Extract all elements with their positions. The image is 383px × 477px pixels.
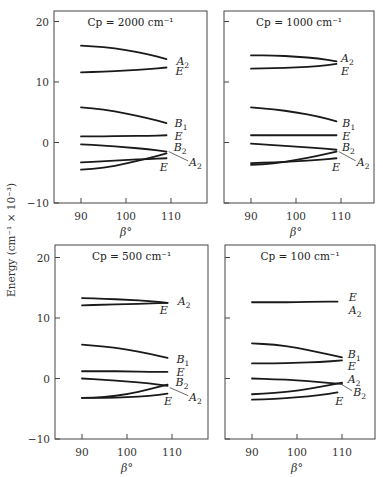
curve-label: B2 <box>352 386 366 401</box>
energy-figure: −100102090100110β°Cp = 2000 cm⁻¹A2EB1EB2… <box>0 0 383 477</box>
curve-b1 <box>252 343 342 357</box>
x-tick-label: 110 <box>332 446 352 458</box>
plot-frame <box>55 245 208 439</box>
panel-title: Cp = 500 cm⁻¹ <box>92 250 171 262</box>
curve-e <box>82 371 168 372</box>
x-tick-label: 110 <box>331 210 351 222</box>
curve-label: A2 <box>356 156 370 171</box>
curve-label: A2 <box>177 295 191 310</box>
curve-e <box>251 64 337 69</box>
curve-label: E <box>159 304 168 317</box>
x-tick-label: 100 <box>286 210 306 222</box>
y-tick-label: 0 <box>43 373 50 385</box>
y-tick-label: 10 <box>37 312 50 324</box>
y-tick-label: 0 <box>42 137 49 149</box>
x-tick-label: 90 <box>75 446 88 458</box>
curve-label: E <box>334 395 343 408</box>
curve-e-a2 <box>252 302 338 303</box>
x-tick-label: 90 <box>244 210 257 222</box>
curve-a2 <box>82 298 168 303</box>
curve-label: E <box>159 161 168 174</box>
x-tick-label: 100 <box>116 210 136 222</box>
curve-label: E <box>347 360 356 373</box>
x-axis-label: β° <box>120 462 133 475</box>
curve-e <box>251 158 337 163</box>
curve-b1 <box>251 107 337 121</box>
panel-title: Cp = 100 cm⁻¹ <box>260 250 339 262</box>
y-tick-label: 20 <box>36 16 49 28</box>
panel-cp-1000: 90100110β°Cp = 1000 cm⁻¹A2EB1EB2A2E <box>224 11 374 239</box>
y-tick-label: 20 <box>37 252 50 264</box>
x-tick-label: 110 <box>162 446 182 458</box>
curve-label: A2 <box>188 391 202 406</box>
plot-frame <box>54 11 207 203</box>
curve-e <box>81 135 167 136</box>
x-tick-label: 90 <box>245 446 258 458</box>
x-tick-label: 100 <box>287 446 307 458</box>
curve-a2 <box>81 46 167 59</box>
curve-b1 <box>82 345 168 358</box>
curve-label: E <box>331 161 340 174</box>
y-tick-label: −10 <box>27 197 49 209</box>
x-tick-label: 90 <box>74 210 87 222</box>
panel-title: Cp = 1000 cm⁻¹ <box>256 16 342 28</box>
curve-b2 <box>81 144 167 151</box>
x-tick-label: 110 <box>161 210 181 222</box>
x-tick-label: 100 <box>117 446 137 458</box>
curve-e <box>81 158 167 162</box>
curve-label: E <box>175 65 184 78</box>
plot-frame <box>225 245 375 439</box>
curve-label: A2 <box>188 156 202 171</box>
panel-cp-2000: −100102090100110β°Cp = 2000 cm⁻¹A2EB1EB2… <box>27 11 207 239</box>
plot-frame <box>224 11 374 203</box>
y-tick-label: −10 <box>28 433 50 445</box>
curve-label: B1 <box>174 117 188 132</box>
curve-b2 <box>251 144 337 150</box>
curve-a2 <box>252 379 342 384</box>
curve-label: E <box>348 291 357 304</box>
curve-label: B2 <box>175 376 189 391</box>
x-axis-label: β° <box>290 462 303 475</box>
panel-cp-100: 90100110β°Cp = 100 cm⁻¹EA2B1EA2B2E <box>225 245 375 475</box>
curve-label: A2 <box>348 304 362 319</box>
curve-label: E <box>163 395 172 408</box>
y-axis-label: Energy (cm⁻¹ × 10⁻³) <box>5 183 17 297</box>
curve-b2 <box>252 383 342 394</box>
x-axis-label: β° <box>289 226 302 239</box>
curve-e <box>82 303 168 305</box>
curve-a2 <box>251 55 337 61</box>
curve-label: B1 <box>341 117 355 132</box>
curve-e <box>81 67 167 72</box>
x-axis-label: β° <box>119 226 132 239</box>
curve-b1 <box>81 107 167 123</box>
curve-b2 <box>82 379 168 386</box>
curve-e <box>252 360 342 363</box>
curve-label: E <box>340 65 349 78</box>
y-tick-label: 10 <box>36 76 49 88</box>
panel-title: Cp = 2000 cm⁻¹ <box>88 16 174 28</box>
panel-cp-500: −100102090100110β°Cp = 500 cm⁻¹A2EB1EB2A… <box>28 245 208 475</box>
